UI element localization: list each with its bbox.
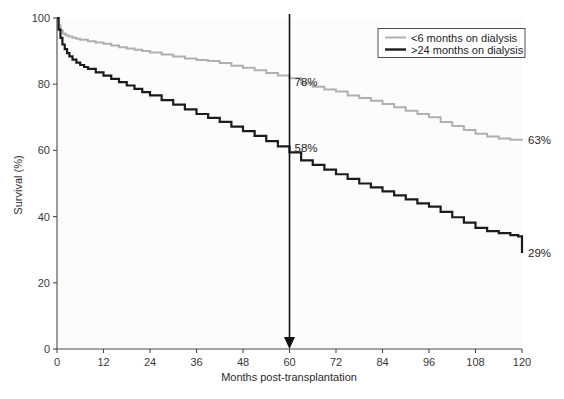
x-tick-label: 12 (97, 356, 109, 368)
x-tick-label: 48 (237, 356, 249, 368)
y-tick-label: 0 (44, 343, 50, 355)
annotation-black-endpoint: 29% (528, 247, 551, 259)
annotation-black-at-60: 58% (295, 142, 318, 154)
x-tick-label: 0 (54, 356, 60, 368)
survival-chart-figure: 020406080100 01224364860728496108120 Mon… (0, 0, 564, 399)
y-tick-label: 40 (38, 211, 50, 223)
y-tick-label: 60 (38, 144, 50, 156)
x-tick-label: 60 (283, 356, 295, 368)
x-tick-label: 96 (423, 356, 435, 368)
x-tick-label: 24 (144, 356, 156, 368)
x-tick-label: 108 (466, 356, 484, 368)
x-axis-title: Months post-transplantation (221, 371, 357, 383)
x-tick-label: 120 (513, 356, 531, 368)
y-tick-label: 80 (38, 78, 50, 90)
legend-label-dark: >24 months on dialysis (411, 44, 524, 56)
legend: <6 months on dialysis >24 months on dial… (378, 29, 525, 58)
x-tick-label: 72 (330, 356, 342, 368)
y-axis-title: Survival (%) (12, 155, 24, 214)
x-tick-label: 36 (190, 356, 202, 368)
legend-label-light: <6 months on dialysis (411, 32, 518, 44)
y-tick-label: 20 (38, 277, 50, 289)
annotation-gray-at-60: 78% (295, 76, 318, 88)
y-tick-label: 100 (32, 12, 50, 24)
chart-svg: 020406080100 01224364860728496108120 Mon… (0, 0, 564, 399)
annotation-gray-endpoint: 63% (528, 134, 551, 146)
x-tick-label: 84 (376, 356, 388, 368)
